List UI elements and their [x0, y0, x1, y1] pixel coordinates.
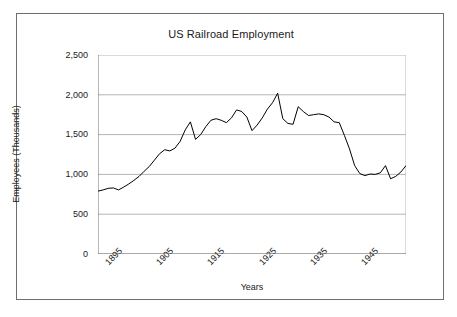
y-tick-label-1500: 1,500: [28, 129, 88, 139]
plot-area: [98, 55, 406, 254]
chart-frame: US Railroad Employment Employees (Thousa…: [16, 13, 444, 300]
y-axis-title: Employees (Thousands): [11, 74, 21, 234]
y-tick-label-1000: 1,000: [28, 169, 88, 179]
plot-svg: [98, 55, 406, 254]
y-tick-label-2000: 2,000: [28, 90, 88, 100]
series-line-us-railroad-employment: [98, 93, 406, 191]
chart-figure: US Railroad Employment Employees (Thousa…: [0, 0, 457, 317]
y-tick-label-2500: 2,500: [28, 50, 88, 60]
y-axis-title-wrapper: Employees (Thousands): [11, 74, 27, 234]
y-tick-label-500: 500: [28, 209, 88, 219]
x-axis-title: Years: [98, 282, 406, 292]
y-tick-label-0: 0: [28, 249, 88, 259]
axis-lines: [98, 55, 406, 254]
gridlines: [98, 55, 406, 254]
chart-title: US Railroad Employment: [17, 28, 445, 40]
